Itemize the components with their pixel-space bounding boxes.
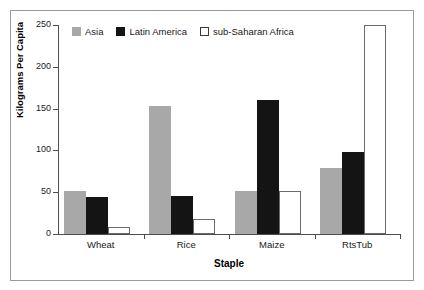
y-tick-label: 250 bbox=[6, 20, 51, 29]
x-tick-mark bbox=[315, 234, 316, 239]
legend-item: Latin America bbox=[116, 27, 187, 37]
x-category-label: Rice bbox=[146, 240, 226, 250]
bar bbox=[64, 191, 86, 234]
x-axis-title: Staple bbox=[58, 258, 400, 269]
legend-label: Asia bbox=[85, 27, 103, 37]
bar bbox=[257, 100, 279, 234]
y-tick-label: 0 bbox=[6, 229, 51, 238]
legend-label: Latin America bbox=[129, 27, 187, 37]
legend-label: sub-Saharan Africa bbox=[213, 27, 294, 37]
y-tick-label: 150 bbox=[6, 104, 51, 113]
x-category-label: RtsTub bbox=[317, 240, 397, 250]
bar bbox=[86, 197, 108, 234]
bar bbox=[342, 152, 364, 234]
bar bbox=[193, 219, 215, 234]
bar bbox=[171, 196, 193, 234]
legend-item: sub-Saharan Africa bbox=[200, 27, 294, 37]
x-category-label: Wheat bbox=[61, 240, 141, 250]
y-tick-label: 100 bbox=[6, 145, 51, 154]
legend-item: Asia bbox=[72, 27, 103, 37]
x-tick-mark bbox=[229, 234, 230, 239]
legend-swatch-icon bbox=[72, 27, 81, 36]
bar bbox=[364, 25, 386, 234]
x-tick-mark bbox=[144, 234, 145, 239]
chart-legend: AsiaLatin Americasub-Saharan Africa bbox=[72, 27, 307, 37]
y-tick-label: 200 bbox=[6, 62, 51, 71]
y-tick-mark bbox=[53, 234, 58, 235]
bars-layer bbox=[58, 25, 400, 234]
legend-swatch-icon bbox=[116, 27, 125, 36]
chart-figure: Kilograms Per Capita 050100150200250 Whe… bbox=[0, 0, 424, 290]
x-category-label: Maize bbox=[232, 240, 312, 250]
y-tick-label: 50 bbox=[6, 187, 51, 196]
bar bbox=[108, 227, 130, 234]
bar bbox=[320, 168, 342, 234]
legend-swatch-icon bbox=[200, 27, 209, 36]
bar bbox=[149, 106, 171, 234]
bar bbox=[279, 191, 301, 234]
bar bbox=[235, 191, 257, 234]
x-tick-mark bbox=[400, 234, 401, 239]
